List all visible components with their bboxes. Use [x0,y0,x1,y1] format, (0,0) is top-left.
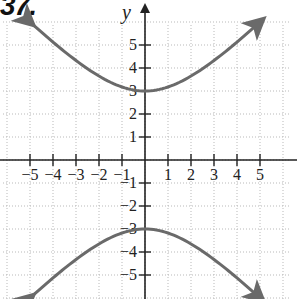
x-tick-label: −2 [90,166,107,183]
y-tick-label: 2 [129,105,137,122]
x-tick-label: 4 [233,166,241,183]
y-tick-label: −2 [120,197,137,214]
x-tick-label: 1 [164,166,172,183]
x-tick-label: −5 [21,166,38,183]
y-tick-label: −4 [120,243,137,260]
x-tick-label: −3 [67,166,84,183]
x-tick-label: −4 [44,166,61,183]
y-tick-label: 1 [129,128,137,145]
y-tick-label: −5 [120,266,137,283]
hyperbola-graph: −5−4−3−2−112345−5−4−3−2−112345 y [0,0,297,299]
x-tick-label: 2 [187,166,195,183]
x-tick-label: 5 [256,166,264,183]
axes [0,8,297,299]
y-tick-label: −1 [120,174,137,191]
y-tick-label: 5 [129,36,137,53]
y-tick-label: 4 [129,59,137,76]
y-axis-label: y [120,1,131,24]
x-tick-label: 3 [210,166,218,183]
